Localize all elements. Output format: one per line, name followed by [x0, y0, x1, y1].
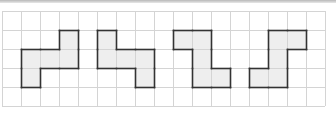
shape-2-cell: [135, 49, 154, 68]
shape-2-cell: [97, 49, 116, 68]
shape-4-cell: [249, 68, 268, 87]
shape-3-cell: [173, 30, 192, 49]
shape-4-cell: [287, 30, 306, 49]
shape-3-cell: [211, 68, 230, 87]
shape-1-cell: [21, 49, 40, 68]
shape-2-cell: [97, 30, 116, 49]
grid-diagram: [0, 0, 336, 120]
shape-1-cell: [59, 30, 78, 49]
shape-2-cell: [116, 49, 135, 68]
shape-3-cell: [192, 68, 211, 87]
shape-2-cell: [135, 68, 154, 87]
shape-3-cell: [192, 30, 211, 49]
shape-1-cell: [21, 68, 40, 87]
shape-3-cell: [192, 49, 211, 68]
shape-1-cell: [40, 49, 59, 68]
shape-1-cell: [59, 49, 78, 68]
shape-4-cell: [268, 30, 287, 49]
shape-4-cell: [268, 49, 287, 68]
shape-4-cell: [268, 68, 287, 87]
